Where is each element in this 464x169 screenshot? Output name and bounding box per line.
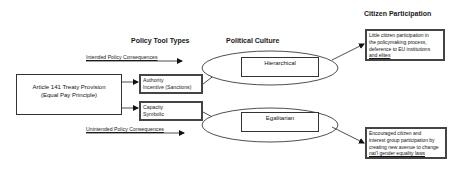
outcome-box-egalitarian: Encouraged citizen and interest group pa… [365,127,447,159]
header-policy-tool-types: Policy Tool Types [131,37,189,44]
outcome-2-line-3: creating new avenue to change [369,144,443,151]
outcome-2-line-1: Encouraged citizen and [369,130,443,137]
tool-box-authority: Authority Incentive (Sanctions) [139,74,203,94]
source-line-1: Article 141 Treaty Provision [17,83,121,91]
tool-authority-line-1: Authority [143,77,199,84]
culture-egalitarian-label: Egalitarian [266,115,294,121]
source-box: Article 141 Treaty Provision (Equal Pay … [16,74,122,115]
outcome-1-line-3: deference to EU institutions [369,46,441,53]
outcome-1-line-2: the policymaking process, [369,39,441,46]
unintended-consequences-label: Unintended Policy Consequences [86,126,164,132]
arrow-hierarchical-to-outcome [332,44,364,60]
outcome-1-line-1: Little citizen participation in [369,32,441,39]
outcome-1-line-4: and elites [369,52,441,59]
tool-authority-line-2: Incentive (Sanctions) [143,84,199,91]
culture-egalitarian: Egalitarian [241,112,319,132]
tool-box-capacity: Capacity Symbolic [139,101,203,121]
header-citizen-participation: Citizen Participation [364,10,431,17]
outcome-2-line-4: nat'l gender equality laws [369,150,443,157]
tool-capacity-line-2: Symbolic [143,111,199,118]
intended-consequences-label: Intended Policy Consequences [86,54,158,60]
arrow-egalitarian-to-outcome [332,127,364,143]
tool-capacity-line-1: Capacity [143,104,199,111]
culture-hierarchical: Hierarchical [241,57,319,77]
header-political-culture: Political Culture [226,37,279,44]
culture-hierarchical-label: Hierarchical [264,60,296,66]
outcome-box-hierarchical: Little citizen participation in the poli… [365,29,445,61]
source-line-2: (Equal Pay Principle) [17,91,121,99]
outcome-2-line-2: interest group participation by [369,137,443,144]
